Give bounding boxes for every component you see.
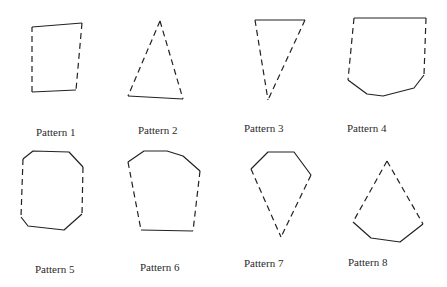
dashed-edge [82,167,83,214]
solid-edge [128,151,200,171]
solid-edge [348,75,424,96]
solid-edge [141,230,193,231]
solid-edge [128,96,183,99]
dashed-edge [281,175,311,237]
pattern-1-label: Pattern 1 [36,126,75,138]
dashed-edge [76,23,82,90]
pattern-3-shape [255,20,305,100]
pattern-6-shape [128,151,200,231]
solid-edge [353,222,423,242]
pattern-5-label: Pattern 5 [35,263,74,275]
pattern-6-label: Pattern 6 [140,261,179,273]
pattern-8-label: Pattern 8 [348,256,387,268]
dashed-edge [353,161,387,222]
pattern-5-shape [21,151,83,230]
pattern-shapes [0,0,447,287]
dashed-edge [128,162,141,230]
solid-edge [32,23,82,27]
dashed-edge [268,20,305,100]
dashed-edge [21,159,23,217]
pattern-4-shape [348,18,426,96]
solid-edge [21,214,82,230]
dashed-edge [193,171,200,231]
pattern-2-shape [128,21,183,99]
pattern-3-label: Pattern 3 [244,122,283,134]
dashed-edge [160,21,183,99]
pattern-7-shape [251,152,311,237]
pattern-8-shape [353,161,423,242]
solid-edge [251,152,311,175]
dashed-edge [255,20,268,100]
pattern-2-label: Pattern 2 [138,124,177,136]
pattern-7-label: Pattern 7 [244,257,283,269]
solid-edge [32,90,76,92]
dashed-edge [348,18,354,80]
dashed-edge [251,169,281,237]
dashed-edge [424,18,426,75]
dashed-edge [128,21,160,96]
pattern-1-shape [32,23,82,92]
pattern-4-label: Pattern 4 [347,122,386,134]
dashed-edge [387,161,423,224]
solid-edge [23,151,83,167]
pattern-diagram: Pattern 1 Pattern 2 Pattern 3 Pattern 4 … [0,0,447,287]
